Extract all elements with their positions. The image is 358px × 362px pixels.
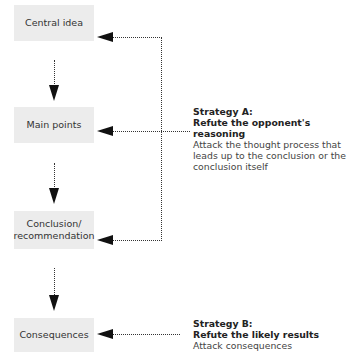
strategy-a-bracket (161, 37, 162, 241)
box-consequences: Consequences (14, 318, 94, 352)
strategy-b-heading: Strategy B: (193, 318, 319, 329)
flow-line-2 (54, 163, 55, 189)
arrow-left-icon (97, 329, 113, 339)
strategy-a: Strategy A: Refute the opponent's reason… (193, 106, 358, 172)
box-label: Consequences (19, 329, 88, 341)
strategy-a-desc-3: conclusion itself (193, 161, 358, 172)
arrow-left-icon (97, 32, 113, 42)
strategy-a-title: Refute the opponent's reasoning (193, 117, 358, 139)
arrow-left-icon (97, 126, 113, 136)
box-label: Central idea (25, 17, 83, 29)
strategy-a-desc-1: Attack the thought process that (193, 139, 358, 150)
strategy-a-heading: Strategy A: (193, 106, 358, 117)
flow-line-3 (54, 268, 55, 295)
arrow-down-icon (49, 295, 59, 311)
strategy-b-desc-1: Attack consequences (193, 340, 319, 351)
connector-main-points (112, 131, 190, 132)
box-label-line1: Conclusion/ (27, 218, 82, 230)
connector-consequences (112, 334, 180, 335)
arrow-down-icon (49, 85, 59, 101)
connector-conclusion (112, 240, 162, 241)
box-conclusion: Conclusion/ recommendation (14, 211, 94, 249)
box-main-points: Main points (14, 107, 94, 143)
connector-central-idea (112, 37, 162, 38)
flow-line-1 (54, 60, 55, 86)
box-label-line2: recommendation (14, 230, 95, 242)
box-central-idea: Central idea (14, 5, 94, 41)
strategy-b-title: Refute the likely results (193, 329, 319, 340)
strategy-a-desc-2: leads up to the conclusion or the (193, 150, 358, 161)
arrow-left-icon (97, 235, 113, 245)
box-label: Main points (27, 119, 82, 131)
strategy-b: Strategy B: Refute the likely results At… (193, 318, 319, 351)
arrow-down-icon (49, 188, 59, 204)
